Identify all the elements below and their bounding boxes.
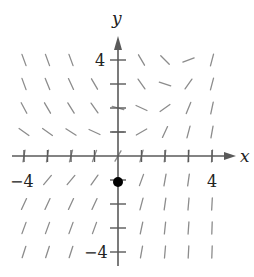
slope-segment <box>45 222 49 233</box>
slope-segment <box>188 222 189 234</box>
slope-segment <box>67 175 75 184</box>
slope-segment <box>210 54 213 66</box>
slope-segment <box>22 78 26 89</box>
slope-segment <box>164 174 166 186</box>
slope-segment <box>68 199 73 210</box>
slope-segment <box>139 55 145 65</box>
slope-segment <box>68 103 74 113</box>
slope-segment <box>186 102 190 113</box>
slope-segment <box>43 129 53 136</box>
slope-segment <box>140 198 143 210</box>
slope-segment <box>22 54 26 65</box>
slope-segment <box>161 56 169 64</box>
slope-segment <box>69 54 73 65</box>
slope-segment <box>164 246 165 258</box>
slope-segment <box>22 246 26 257</box>
slope-segment <box>69 222 73 233</box>
slope-segment <box>92 199 97 210</box>
slope-segment <box>19 129 29 136</box>
slope-segment <box>211 126 213 138</box>
slope-segment <box>162 127 167 138</box>
y-axis-arrow-icon <box>114 36 122 50</box>
y-tick-label-4: 4 <box>95 51 105 70</box>
axis-labels: x y −4 4 4 −4 <box>10 8 250 262</box>
x-axis-arrow-icon <box>224 152 236 160</box>
slope-segment <box>188 174 190 186</box>
slope-segment <box>89 129 100 134</box>
slope-segment <box>136 105 147 110</box>
slope-segment <box>66 129 76 135</box>
initial-point <box>113 177 123 187</box>
slope-segment <box>45 103 51 113</box>
slope-segment <box>210 78 213 90</box>
slope-segment <box>22 222 26 233</box>
slope-segment <box>44 175 52 184</box>
slope-segment <box>68 79 73 90</box>
slope-segment <box>46 246 50 257</box>
x-tick-label-4: 4 <box>207 172 217 191</box>
slope-segment <box>91 103 98 113</box>
slope-segment <box>140 222 142 234</box>
y-axis-label: y <box>111 8 122 28</box>
slope-segment <box>45 199 50 210</box>
slope-segment <box>211 102 213 114</box>
slope-segment <box>160 105 170 112</box>
slope-segment <box>69 246 73 257</box>
slope-segment <box>138 79 145 89</box>
slope-segment <box>92 222 96 233</box>
slope-segment <box>183 58 194 62</box>
slope-segment <box>164 222 165 234</box>
x-tick-label-neg4: −4 <box>10 172 34 191</box>
slope-segment <box>185 79 192 89</box>
x-axis-label: x <box>240 146 250 166</box>
slope-segment <box>164 198 166 210</box>
slope-segment <box>21 199 26 210</box>
slope-segment <box>45 78 49 89</box>
slope-segment <box>136 129 146 135</box>
slope-segment <box>21 103 27 114</box>
slope-segment <box>140 246 142 258</box>
slope-segment <box>139 174 143 185</box>
slope-segment <box>92 79 98 89</box>
y-tick-label-neg4: −4 <box>84 243 108 262</box>
slope-segment <box>188 246 189 258</box>
slope-segment <box>45 54 49 65</box>
slope-segment <box>187 126 190 138</box>
slope-segment <box>159 82 170 86</box>
slope-segment <box>188 198 189 210</box>
slope-segment <box>91 175 98 185</box>
slope-field-plot: x y −4 4 4 −4 <box>0 0 254 277</box>
slope-segment <box>212 198 213 210</box>
